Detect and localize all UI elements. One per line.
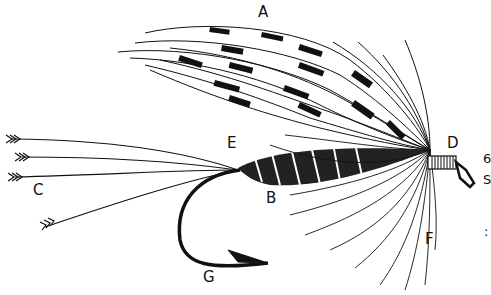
edge-fragment-2: S <box>483 173 491 186</box>
label-a-wing: A <box>258 5 268 20</box>
head <box>428 156 474 187</box>
label-g-hook: G <box>203 270 215 285</box>
wing <box>118 26 430 150</box>
label-f-hackle: F <box>425 232 434 247</box>
hook <box>179 170 268 266</box>
label-d-head: D <box>447 136 459 151</box>
label-e-tag: E <box>227 136 236 151</box>
edge-fragment-3: : <box>484 225 488 238</box>
body <box>238 148 430 185</box>
label-b-body: B <box>266 191 276 206</box>
edge-fragment-1: 6 <box>483 152 491 165</box>
label-c-tail: C <box>33 183 43 198</box>
